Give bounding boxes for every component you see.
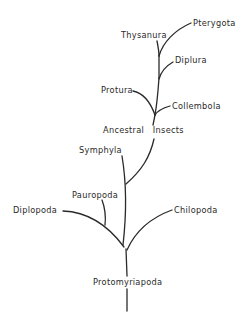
- branch-chilopoda: [127, 210, 172, 250]
- label-symphyla: Symphyla: [79, 145, 122, 155]
- stem-insects-upper: [155, 78, 159, 115]
- label-ancestral-insects: Ancestral Insects: [103, 125, 184, 135]
- label-thysanura: Thysanura: [120, 30, 167, 40]
- label-pauropoda: Pauropoda: [72, 190, 118, 200]
- stem-ancestral-insects: [153, 115, 155, 125]
- branch-thysanura: [157, 41, 159, 56]
- stem-insects-lower: [126, 139, 154, 184]
- label-diplopoda: Diplopoda: [13, 205, 57, 215]
- phylogenetic-tree: Pterygota Thysanura Diplura Protura Coll…: [0, 0, 245, 318]
- label-diplura: Diplura: [175, 55, 207, 65]
- label-collembola: Collembola: [172, 101, 221, 111]
- label-chilopoda: Chilopoda: [174, 205, 218, 215]
- branch-symphyla: [122, 156, 126, 245]
- branch-collembola: [155, 106, 170, 115]
- stem-protomyriapoda-upper: [126, 249, 127, 276]
- label-pterygota: Pterygota: [193, 18, 236, 28]
- branch-protura: [133, 91, 155, 115]
- branch-pauropoda: [102, 200, 105, 225]
- branch-diplura: [159, 62, 173, 79]
- label-protura: Protura: [101, 85, 133, 95]
- branch-diplopoda: [63, 211, 124, 247]
- label-protomyriapoda: Protomyriapoda: [93, 277, 162, 287]
